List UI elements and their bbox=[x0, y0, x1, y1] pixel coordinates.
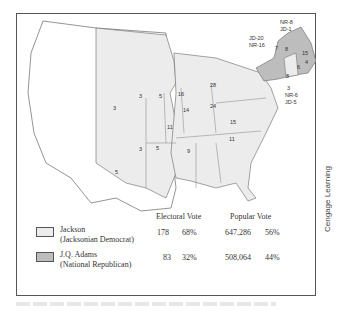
adams-ev: 83 bbox=[163, 253, 171, 262]
adams-party: (National Republican) bbox=[60, 260, 131, 269]
svg-text:8: 8 bbox=[285, 46, 288, 52]
svg-text:15: 15 bbox=[302, 50, 308, 56]
jackson-party: (Jacksonian Democrat) bbox=[60, 235, 134, 244]
adams-swatch bbox=[36, 252, 54, 262]
svg-text:4: 4 bbox=[305, 59, 308, 65]
svg-text:5: 5 bbox=[115, 169, 118, 175]
svg-text:9: 9 bbox=[187, 148, 190, 154]
svg-text:5: 5 bbox=[159, 93, 162, 99]
svg-text:3: 3 bbox=[113, 105, 116, 111]
jackson-name: Jackson bbox=[60, 225, 85, 234]
svg-text:3: 3 bbox=[139, 146, 142, 152]
svg-text:NR-16: NR-16 bbox=[249, 42, 265, 48]
svg-text:14: 14 bbox=[183, 107, 189, 113]
adams-pv-pct: 44% bbox=[265, 253, 280, 262]
jackson-pv: 647,286 bbox=[225, 228, 251, 237]
electoral-vote-header: Electoral Vote bbox=[156, 212, 201, 221]
svg-text:7: 7 bbox=[275, 45, 278, 51]
jackson-swatch bbox=[36, 227, 54, 237]
svg-text:5: 5 bbox=[156, 145, 159, 151]
svg-text:JD-1: JD-1 bbox=[280, 26, 292, 32]
svg-text:JD-5: JD-5 bbox=[285, 99, 297, 105]
svg-text:3: 3 bbox=[139, 93, 142, 99]
svg-text:NR-8: NR-8 bbox=[280, 19, 293, 25]
jackson-ev: 178 bbox=[157, 228, 169, 237]
svg-text:28: 28 bbox=[210, 82, 216, 88]
jackson-pv-pct: 56% bbox=[265, 228, 280, 237]
jackson-ev-pct: 68% bbox=[182, 228, 197, 237]
svg-text:11: 11 bbox=[229, 136, 235, 142]
svg-text:JD-20: JD-20 bbox=[249, 35, 264, 41]
svg-text:NR-6: NR-6 bbox=[285, 92, 298, 98]
caption-line bbox=[16, 302, 276, 306]
popular-vote-header: Popular Vote bbox=[230, 212, 271, 221]
svg-text:6: 6 bbox=[297, 64, 300, 70]
svg-text:3: 3 bbox=[287, 85, 290, 91]
svg-text:11: 11 bbox=[167, 124, 173, 130]
adams-name: J.Q. Adams bbox=[60, 250, 97, 259]
credit-text: Cengage Learning bbox=[323, 166, 332, 232]
svg-text:16: 16 bbox=[178, 91, 184, 97]
adams-pv: 508,064 bbox=[225, 253, 251, 262]
svg-text:15: 15 bbox=[230, 119, 236, 125]
svg-text:8: 8 bbox=[286, 73, 289, 79]
svg-text:24: 24 bbox=[210, 103, 216, 109]
adams-ev-pct: 32% bbox=[182, 253, 197, 262]
